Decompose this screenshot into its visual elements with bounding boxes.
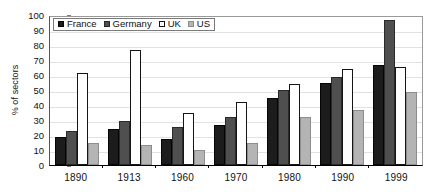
bar-uk-1980 [289,84,300,165]
x-axis-tick-mark [315,165,316,168]
bar-france-1999 [373,65,384,165]
x-axis-tick-labels: 1890191319601970198019901999 [49,172,423,183]
y-axis-title: % of sectors [10,45,20,135]
legend-label-uk: UK [168,19,181,29]
bar-uk-1999 [395,67,406,165]
x-axis-tick-mark [262,165,263,168]
legend-swatch-icon-uk [159,21,165,27]
x-axis-tick-mark [102,165,103,168]
bar-uk-1990 [342,69,353,165]
bar-france-1960 [161,139,172,165]
y-axis-tick-100: 100 [22,11,44,21]
legend-item-germany[interactable]: Germany [104,19,152,29]
legend-swatch-icon-germany [104,21,110,27]
bar-group-1999 [369,17,422,165]
legend-item-us[interactable]: US [188,19,210,29]
y-axis-tick-30: 30 [22,116,44,126]
y-axis-tick-60: 60 [22,71,44,81]
x-axis-tick-mark [155,165,156,168]
y-axis-tick-20: 20 [22,131,44,141]
x-axis-label-1980: 1980 [263,172,316,183]
bar-group-1990 [316,17,369,165]
bar-group-1960 [156,17,209,165]
y-axis-tick-labels: 1009080706050403020100 [22,16,44,166]
y-axis-tick-50: 50 [22,86,44,96]
legend-label-france: France [67,19,97,29]
bar-us-1970 [247,143,258,166]
bar-france-1980 [267,98,278,166]
legend-item-france[interactable]: France [58,19,97,29]
bar-group-1980 [263,17,316,165]
x-axis-label-1913: 1913 [102,172,155,183]
bar-group-1913 [103,17,156,165]
bar-us-1960 [194,150,205,165]
legend-item-uk[interactable]: UK [159,19,181,29]
bar-us-1990 [353,110,364,166]
bar-uk-1890 [77,73,88,165]
bar-france-1990 [320,83,331,166]
bar-chart: % of sectors 1009080706050403020100 1890… [0,0,431,196]
y-axis-tick-10: 10 [22,146,44,156]
bar-germany-1970 [225,117,236,165]
bar-group-1970 [209,17,262,165]
bar-us-1890 [88,143,99,165]
bar-france-1890 [55,137,66,165]
bar-us-1999 [406,92,417,166]
legend-label-germany: Germany [113,19,152,29]
bar-uk-1913 [130,50,141,166]
bar-germany-1890 [66,131,77,166]
bar-uk-1960 [183,113,194,165]
legend-swatch-icon-us [188,21,194,27]
x-axis-label-1890: 1890 [49,172,102,183]
bar-groups [50,17,422,165]
bar-germany-1960 [172,127,183,165]
y-axis-tick-0: 0 [22,161,44,171]
chart-legend: FranceGermanyUKUS [53,18,215,31]
bar-us-1913 [141,145,152,165]
bar-uk-1970 [236,102,247,165]
y-axis-tick-90: 90 [22,26,44,36]
x-axis-tick-mark [368,165,369,168]
x-axis-label-1960: 1960 [156,172,209,183]
plot-area [49,16,423,166]
bar-us-1980 [300,117,311,165]
bar-germany-1990 [331,77,342,166]
bar-germany-1999 [384,20,395,165]
bar-france-1913 [108,129,119,165]
y-axis-tick-80: 80 [22,41,44,51]
x-axis-tick-mark [208,165,209,168]
bar-france-1970 [214,125,225,166]
x-axis-label-1990: 1990 [316,172,369,183]
legend-label-us: US [197,19,210,29]
bar-germany-1980 [278,90,289,165]
y-axis-tick-40: 40 [22,101,44,111]
legend-swatch-icon-france [58,21,64,27]
x-axis-label-1970: 1970 [209,172,262,183]
x-axis-label-1999: 1999 [370,172,423,183]
bar-germany-1913 [119,121,130,165]
y-axis-tick-70: 70 [22,56,44,66]
bar-group-1890 [50,17,103,165]
